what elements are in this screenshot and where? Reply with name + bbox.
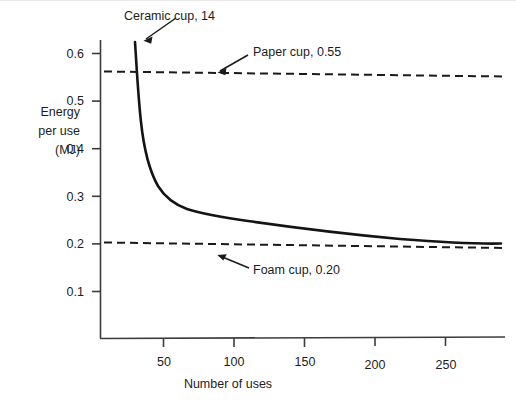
y-axis-title-line-1: Energy [8, 103, 80, 122]
y-axis-title-line-2: per use [8, 122, 80, 141]
foam-cup-reference-line [104, 243, 504, 249]
x-tick-label-50: 50 [144, 354, 184, 371]
x-tick-label-200: 200 [355, 357, 395, 374]
x-tick-label-100: 100 [214, 354, 254, 371]
chart-container: 0.6 0.5 0.4 0.3 0.2 0.1 50 100 150 200 2… [0, 0, 516, 408]
paper-cup-reference-line [104, 72, 504, 77]
annotation-ceramic-cup: Ceramic cup, 14 [124, 8, 215, 25]
annotation-foam-cup: Foam cup, 0.20 [253, 262, 340, 279]
y-tick-label-0.6: 0.6 [48, 46, 84, 63]
x-tick-label-250: 250 [426, 357, 466, 374]
y-axis-title-line-3: (MJ) [8, 141, 80, 160]
x-axis-line [100, 337, 505, 339]
y-axis-ticks [92, 54, 101, 292]
paper-cup-arrow [218, 55, 249, 75]
y-tick-label-0.3: 0.3 [48, 189, 84, 206]
annotation-paper-cup: Paper cup, 0.55 [253, 44, 341, 61]
y-tick-label-0.2: 0.2 [48, 236, 84, 253]
y-tick-label-0.1: 0.1 [48, 284, 84, 301]
x-axis-title: Number of uses [148, 376, 308, 393]
x-tick-label-150: 150 [285, 354, 325, 371]
foam-cup-arrow [217, 254, 249, 268]
